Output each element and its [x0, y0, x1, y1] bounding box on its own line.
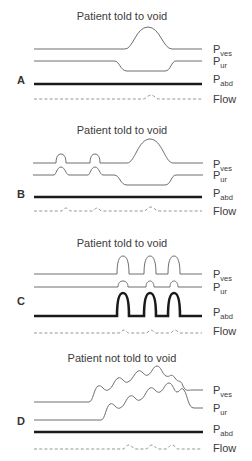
panel-c: Patient told to void C Pves Pur Pabd Flo…	[17, 237, 236, 337]
panel-a-flow-label: Flow	[213, 93, 236, 105]
panel-b-flow-label: Flow	[213, 205, 236, 217]
panel-d-title: Patient not told to void	[68, 352, 177, 364]
panel-c-letter: C	[17, 295, 25, 307]
panel-c-pur-label: Pur	[213, 281, 228, 296]
panel-d-pves-trace	[34, 366, 203, 402]
panel-d: Patient not told to void D Pves Pur Pabd…	[17, 352, 236, 454]
panel-a-letter: A	[17, 74, 25, 86]
panel-b-pabd-label: Pabd	[213, 187, 233, 202]
panel-b-letter: B	[17, 188, 25, 200]
panel-a-flow-trace	[34, 95, 202, 99]
panel-a: Patient told to void A Pves Pur Pabd Flo…	[17, 10, 236, 105]
panel-c-flow-trace	[34, 330, 202, 333]
panel-d-flow-label: Flow	[213, 442, 236, 454]
panel-c-flow-label: Flow	[213, 325, 236, 337]
urodynamic-diagram: Patient told to void A Pves Pur Pabd Flo…	[0, 0, 252, 461]
panel-c-pabd-label: Pabd	[213, 306, 233, 321]
panel-c-pur-trace	[34, 281, 202, 287]
panel-b-title: Patient told to void	[77, 124, 168, 136]
panel-d-pur-label: Pur	[213, 402, 228, 417]
panel-b-flow-trace	[34, 207, 202, 211]
panel-c-title: Patient told to void	[77, 237, 168, 249]
panel-a-pves-trace	[34, 27, 202, 49]
panel-d-letter: D	[17, 415, 25, 427]
panel-a-pur-trace	[34, 61, 202, 71]
panel-b: Patient told to void B Pves Pur Pabd Flo…	[17, 124, 236, 217]
panel-a-pabd-label: Pabd	[213, 73, 233, 88]
panel-b-pur-trace	[33, 167, 203, 185]
panel-d-flow-trace	[34, 445, 202, 449]
panel-a-title: Patient told to void	[77, 10, 168, 22]
panel-b-pves-trace	[33, 139, 203, 163]
panel-d-pves-label: Pves	[213, 384, 232, 399]
panel-d-pabd-label: Pabd	[213, 423, 233, 438]
panel-c-pabd-trace	[34, 293, 202, 316]
panel-c-pves-trace	[34, 256, 202, 274]
